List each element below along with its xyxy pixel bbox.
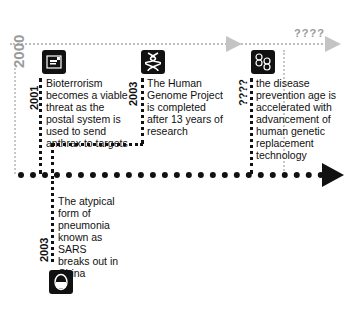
event-year: 2003 [127,82,139,106]
event-connector-horizontal [52,143,143,146]
event-year: ???? [237,79,249,106]
double-dna-icon [251,50,275,74]
event-connector [141,78,144,144]
face-mask-icon [49,270,73,294]
main-timeline [18,172,324,178]
top-timeline [10,43,330,45]
future-label: ???? [294,27,325,39]
start-year-label: 2000 [10,35,27,68]
mail-envelope-icon [42,50,66,74]
event-description: The atypical form of pneumonia known as … [58,195,128,279]
event-description: Bioterrorism becomes a viable threat as … [46,77,136,149]
event-description: The Human Genome Project is completed af… [147,77,242,137]
event-connector [250,78,253,174]
event-connector [51,143,54,173]
gray-connector-left [14,68,16,174]
main-arrow [322,163,344,187]
event-connector [51,176,54,262]
event-description: the disease prevention age is accelerate… [256,77,356,161]
event-year: 2003 [38,238,50,262]
top-arrow-end [325,36,341,52]
event-connector [39,78,42,174]
dna-helix-icon [141,50,165,74]
top-arrow-mid [226,36,242,52]
